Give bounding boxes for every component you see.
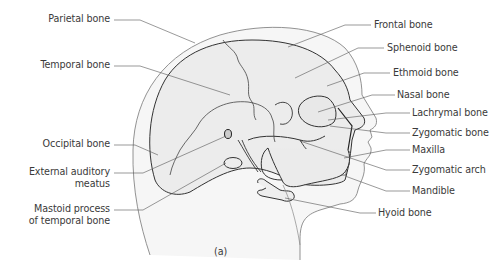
label-text: Nasal bone [397,89,450,100]
label-occipital-bone: Occipital bone [10,138,110,150]
mastoid [224,158,242,169]
label-text: Zygomatic bone [412,127,489,138]
figure-caption: (a) [214,246,227,257]
label-zygomatic-bone: Zygomatic bone [412,127,489,139]
label-text: Ethmoid bone [393,67,459,78]
label-lachrymal-bone: Lachrymal bone [412,107,488,119]
label-mastoid-process: Mastoid process of temporal bone [4,203,110,226]
label-external-auditory-meatus: External auditory meatus [4,166,110,189]
label-text: Maxilla [412,144,445,155]
label-text: Temporal bone [40,59,110,70]
label-mandible: Mandible [412,185,455,197]
label-sphenoid-bone: Sphenoid bone [387,42,458,54]
label-ethmoid-bone: Ethmoid bone [393,67,459,79]
label-text: Mandible [412,185,455,196]
label-text: Zygomatic arch [412,164,486,175]
ear-canal [225,130,232,139]
label-parietal-bone: Parietal bone [18,13,110,25]
label-text: Hyoid bone [378,207,432,218]
label-frontal-bone: Frontal bone [374,19,433,31]
label-text: Parietal bone [48,13,110,24]
label-text: Mastoid process [4,203,110,215]
label-text: Frontal bone [374,19,433,30]
label-text: of temporal bone [4,215,110,227]
label-zygomatic-arch: Zygomatic arch [412,164,486,176]
label-temporal-bone: Temporal bone [10,59,110,71]
label-nasal-bone: Nasal bone [397,89,450,101]
label-hyoid-bone: Hyoid bone [378,207,432,219]
label-text: Sphenoid bone [387,42,458,53]
label-text: Occipital bone [43,138,110,149]
label-text: meatus [4,178,110,190]
label-text: External auditory [4,166,110,178]
label-text: Lachrymal bone [412,107,488,118]
label-maxilla: Maxilla [412,144,445,156]
